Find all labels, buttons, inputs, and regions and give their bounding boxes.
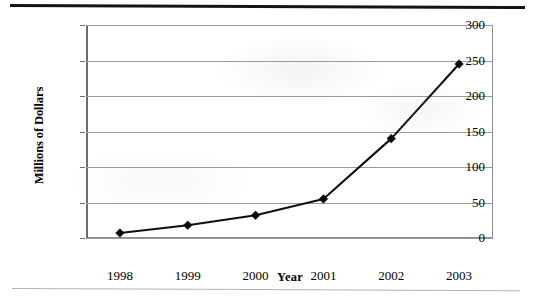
y-tick-mark-200 (80, 96, 85, 97)
data-point-1998 (116, 229, 125, 238)
series-markers (116, 60, 464, 238)
x-tick-label-1998: 1998 (90, 269, 150, 282)
x-tick-label-2003: 2003 (429, 269, 489, 282)
line-chart-figure: Millions of Dollars Year 050100150200250… (0, 0, 534, 297)
x-tick-label-2002: 2002 (361, 269, 421, 282)
page-bottom-divider (12, 288, 520, 291)
y-tick-mark-250 (80, 61, 85, 62)
y-tick-mark-50 (80, 203, 85, 204)
series-plot (86, 25, 493, 238)
gridline-0 (86, 238, 493, 239)
y-tick-mark-0 (80, 238, 85, 239)
series-line-sales (120, 64, 459, 233)
y-tick-mark-300 (80, 25, 85, 26)
x-tick-label-2000: 2000 (226, 269, 286, 282)
y-tick-mark-100 (80, 167, 85, 168)
y-tick-mark-150 (80, 132, 85, 133)
plot-area: 050100150200250300 199819992000200120022… (86, 25, 493, 238)
y-axis-title: Millions of Dollars (32, 51, 47, 221)
page-top-divider (10, 4, 525, 9)
x-tick-label-1999: 1999 (158, 269, 218, 282)
data-point-1999 (183, 221, 192, 230)
data-point-2000 (251, 211, 260, 220)
x-tick-label-2001: 2001 (293, 269, 353, 282)
